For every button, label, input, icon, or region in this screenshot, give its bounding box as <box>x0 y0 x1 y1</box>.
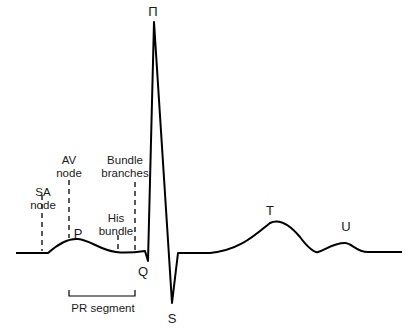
sa-node-label: SA node <box>28 186 58 212</box>
bundle-branches-label: Bundle branches <box>100 154 150 180</box>
r-wave-label: Π <box>146 5 160 18</box>
u-wave-label: U <box>340 220 352 233</box>
av-node-label: AV node <box>54 154 84 180</box>
p-wave-label: P <box>72 227 84 240</box>
pr-segment-bracket <box>69 290 135 296</box>
pr-segment-label: PR segment <box>70 302 136 315</box>
q-wave-label: Q <box>136 265 150 278</box>
his-bundle-label: His bundle <box>96 212 136 238</box>
t-wave-label: T <box>264 204 276 217</box>
s-wave-label: S <box>165 312 179 325</box>
